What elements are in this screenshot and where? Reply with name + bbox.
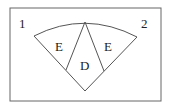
region-label-center: D xyxy=(80,58,89,73)
corner-label-1: 1 xyxy=(19,16,26,31)
region-label-right: E xyxy=(104,39,112,54)
corner-label-2: 2 xyxy=(141,16,148,31)
sector-arc xyxy=(34,23,137,37)
region-label-left: E xyxy=(55,39,63,54)
sector-diagram: 1 2 E D E xyxy=(0,0,169,106)
